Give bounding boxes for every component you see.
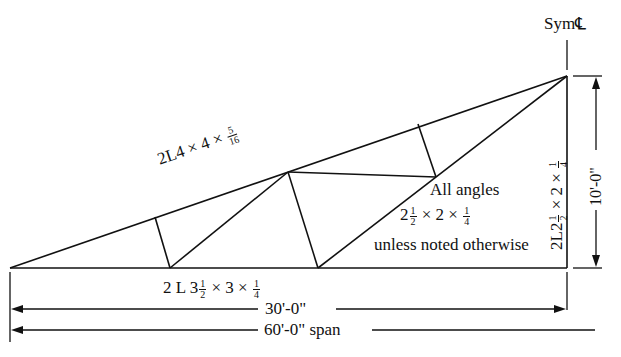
arrow-left-full <box>11 326 23 334</box>
web-1 <box>155 217 170 268</box>
note-line1: All angles <box>430 181 499 198</box>
fraction: 14 <box>253 279 260 300</box>
sym-text: Sym <box>544 14 575 33</box>
arrow-left-half <box>11 305 23 313</box>
note-line2: 212 × 2 × 14 <box>400 206 471 227</box>
web-3 <box>288 172 318 268</box>
height-dimension-label: 10'-0" <box>588 167 604 206</box>
arrow-up <box>592 77 600 89</box>
symmetry-label: Sym℄ <box>544 15 586 32</box>
bottom-chord-label: 2 L 312 × 3 × 14 <box>163 279 261 300</box>
arrow-right-half <box>554 305 566 313</box>
fraction: 14 <box>548 161 569 168</box>
arrow-down <box>592 255 600 267</box>
half-span-label: 30'-0" <box>265 300 306 317</box>
vertical-member-label: 2L212 × 2 × 14 <box>548 160 569 250</box>
fraction: 12 <box>548 215 569 222</box>
full-span-label: 60'-0" span <box>264 321 341 338</box>
centerline-icon: ℄ <box>575 14 586 33</box>
fraction: 14 <box>463 206 470 227</box>
fraction: 12 <box>199 279 206 300</box>
fraction: 12 <box>410 206 417 227</box>
note-line3: unless noted otherwise <box>374 236 529 253</box>
web-5 <box>288 172 436 177</box>
web-2 <box>170 172 288 268</box>
truss-diagram <box>0 0 621 357</box>
web-6 <box>418 124 436 177</box>
